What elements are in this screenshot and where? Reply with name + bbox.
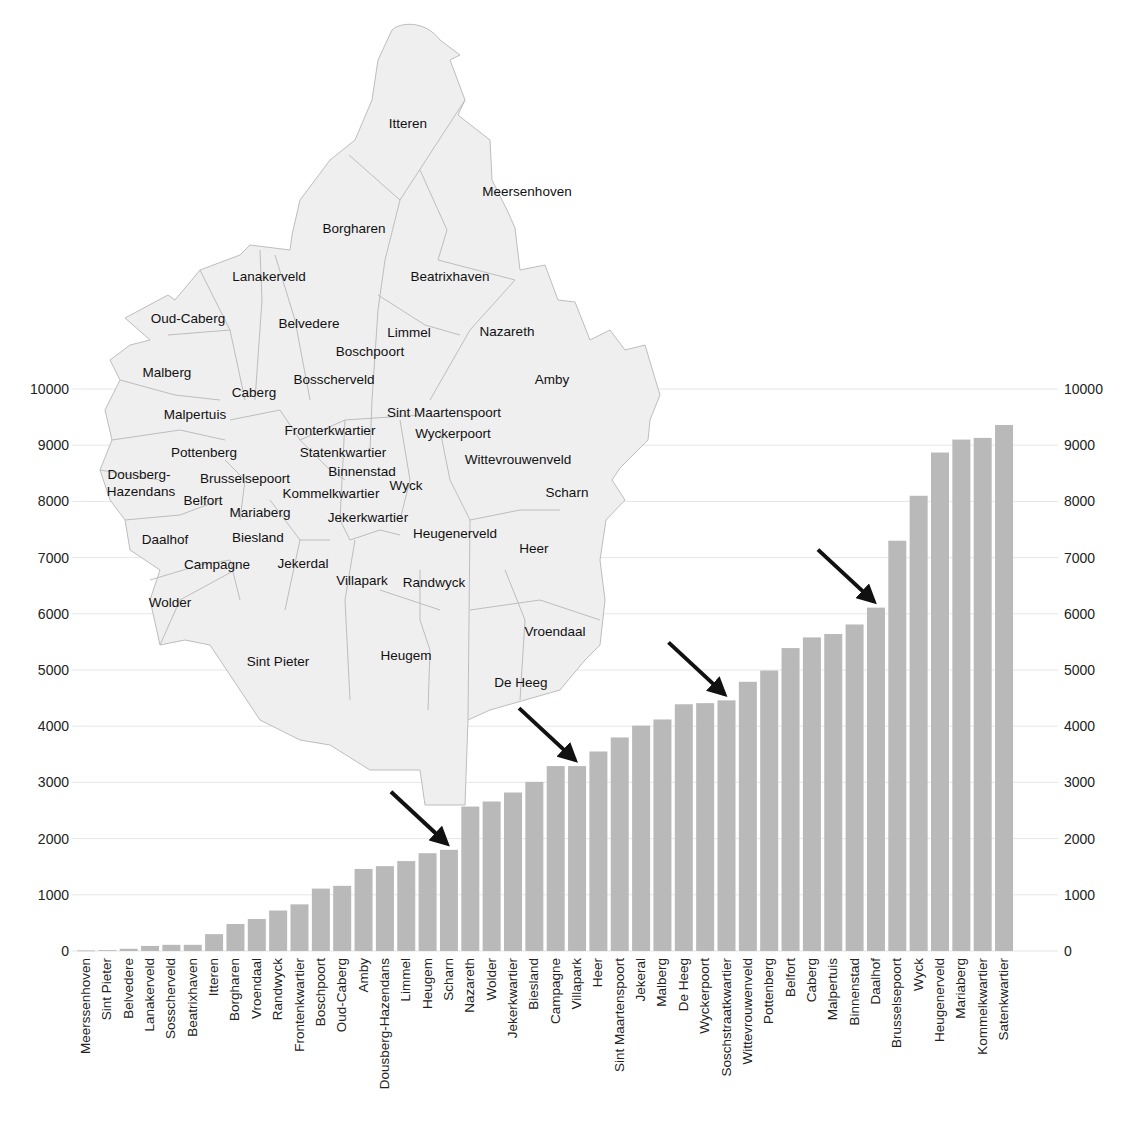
bar: [632, 726, 650, 951]
map-district-label: Meersenhoven: [482, 184, 571, 199]
x-category-label: Mariaberg: [953, 958, 968, 1019]
map-district-label: Dousberg-: [107, 467, 170, 482]
map-district-label: Lanakerveld: [232, 269, 306, 284]
bar: [397, 861, 415, 951]
map-district-label: Malpertuis: [164, 407, 227, 422]
x-category-label: Wyckerpoort: [697, 958, 712, 1034]
x-category-label: Binnenstad: [847, 958, 862, 1026]
x-category-label: Sosscherveld: [163, 958, 178, 1039]
map-district-label: Limmel: [387, 325, 431, 340]
map-district-label: De Heeg: [494, 675, 547, 690]
map-district-label: Belfort: [183, 493, 222, 508]
y-tick-label: 7000: [1064, 550, 1095, 566]
x-category-label: Boschpoort: [313, 958, 328, 1027]
bar: [782, 648, 800, 951]
x-category-label: Randwyck: [270, 958, 285, 1021]
map-district-label: Beatrixhaven: [411, 269, 490, 284]
bar: [312, 889, 330, 951]
x-category-label: Nazareth: [462, 958, 477, 1013]
bar: [718, 700, 736, 951]
x-category-label: Biesland: [526, 958, 541, 1010]
bar: [162, 945, 180, 951]
map-district-label: Sint Maartenspoort: [387, 405, 501, 420]
map-district-label: Brusselsepoort: [200, 471, 290, 486]
bar: [291, 904, 309, 951]
y-tick-label: 5000: [38, 662, 69, 678]
bar: [867, 608, 885, 951]
bar: [611, 737, 629, 951]
x-category-label: Malpertuis: [825, 958, 840, 1021]
x-category-label: Itteren: [206, 958, 221, 996]
y-tick-label: 8000: [38, 493, 69, 509]
map-district-label: Oud-Caberg: [151, 311, 225, 326]
map-district-label: Wolder: [149, 595, 192, 610]
bar: [803, 637, 821, 951]
bar: [675, 704, 693, 951]
x-category-label: Borgharen: [227, 958, 242, 1021]
x-category-label: Campagne: [548, 958, 563, 1024]
y-tick-label: 3000: [38, 774, 69, 790]
bar: [739, 682, 757, 951]
map-district-label: Mariaberg: [230, 505, 291, 520]
bar: [120, 949, 138, 951]
y-tick-label: 8000: [1064, 493, 1095, 509]
bar: [910, 496, 928, 951]
x-category-label: Jekeral: [633, 958, 648, 1002]
neighbourhood-bar-chart: 0100020003000400050006000700080009000100…: [0, 0, 1121, 1143]
map-district-label: Jekerdal: [277, 556, 328, 571]
y-tick-label: 7000: [38, 550, 69, 566]
x-category-label: Dousberg-Hazendans: [377, 958, 392, 1090]
bar: [525, 782, 543, 951]
x-category-label: Pottenberg: [761, 958, 776, 1024]
y-tick-label: 1000: [38, 887, 69, 903]
map-district-label: Malberg: [143, 365, 192, 380]
y-tick-label: 10000: [1064, 381, 1103, 397]
x-category-label: Wolder: [484, 958, 499, 1001]
bar: [824, 634, 842, 951]
map-district-label: Hazendans: [107, 484, 176, 499]
bar: [760, 671, 778, 951]
bar: [952, 440, 970, 951]
arrow-icon: [519, 708, 575, 760]
y-tick-label: 10000: [30, 381, 69, 397]
x-category-label: Frontenkwartier: [292, 958, 307, 1052]
map-district-label: Heugenerveld: [413, 526, 497, 541]
x-category-label: Wyck: [911, 958, 926, 991]
x-category-label: De Heeg: [676, 958, 691, 1011]
x-category-label: Brusselsepoort: [889, 958, 904, 1048]
y-tick-label: 4000: [1064, 718, 1095, 734]
bar: [205, 934, 223, 951]
x-category-label: Heer: [590, 958, 605, 988]
map-district-label: Wyck: [390, 478, 423, 493]
map-district-label: Borgharen: [322, 221, 385, 236]
bar: [504, 793, 522, 951]
bar: [846, 624, 864, 951]
map-district-label: Jekerkwartier: [328, 510, 409, 525]
x-category-label: Villapark: [569, 958, 584, 1010]
x-category-label: Sint Pieter: [99, 957, 114, 1020]
y-tick-label: 3000: [1064, 774, 1095, 790]
bar: [589, 751, 607, 951]
y-tick-label: 6000: [38, 606, 69, 622]
map-district-label: Daalhof: [142, 532, 189, 547]
y-axis-left: 0100020003000400050006000700080009000100…: [30, 381, 69, 959]
map-district-label: Wittevrouwenveld: [465, 452, 572, 467]
bar: [547, 766, 565, 951]
map-district-label: Itteren: [389, 116, 427, 131]
map-district-label: Fronterkwartier: [285, 423, 376, 438]
bar: [333, 886, 351, 951]
map-district-label: Caberg: [232, 385, 276, 400]
x-category-label: Belfort: [783, 958, 798, 997]
map-district-label: Heer: [519, 541, 549, 556]
y-tick-label: 9000: [1064, 437, 1095, 453]
x-category-label: Kommelkwartier: [975, 958, 990, 1055]
y-tick-label: 2000: [38, 831, 69, 847]
bar: [931, 453, 949, 951]
x-category-label: Vroendaal: [249, 958, 264, 1019]
bar: [568, 766, 586, 951]
map-district-label: Biesland: [232, 530, 284, 545]
map-district-label: Heugem: [380, 648, 431, 663]
x-category-label: Heugenerveld: [932, 958, 947, 1042]
x-category-label: Meerssenhoven: [78, 958, 93, 1054]
x-category-label: Scharn: [441, 958, 456, 1001]
